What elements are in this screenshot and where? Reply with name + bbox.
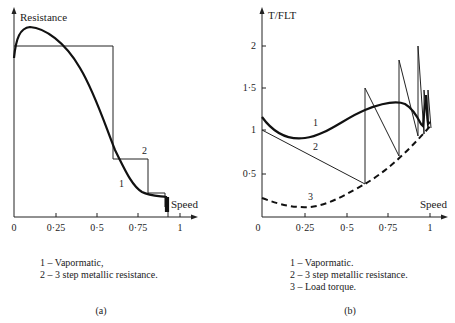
panel-b-axes <box>260 7 449 220</box>
panel-a-legend: 1 – Vapormatic, 2 – 3 step metallic resi… <box>40 257 158 281</box>
panel-a-legend-item: 1 – Vapormatic, <box>40 257 158 269</box>
panel-a-legend-item: 2 – 3 step metallic resistance. <box>40 269 158 281</box>
panel-b-curve-label-3: 3 <box>308 192 313 202</box>
panel-a-x-tick: 0·25 <box>47 223 65 233</box>
panel-b-legend-item: 3 – Load torque. <box>290 281 408 293</box>
panel-a-axes <box>12 7 199 220</box>
panel-b-y-tick: 1·5 <box>226 83 256 93</box>
panel-b-y-tick: 0·5 <box>226 169 256 179</box>
panel-b-x-tick: 0 <box>256 223 261 233</box>
panel-a-x-tick: 0·5 <box>90 223 103 233</box>
panel-b-x-tick: 1 <box>428 223 433 233</box>
panel-a-y-axis-label: Resistance <box>20 12 67 23</box>
panel-b-y-axis-label: T/FLT <box>268 10 296 21</box>
panel-a-vapormatic-curve <box>14 27 168 212</box>
panel-b-legend-item: 1 – Vapormatic. <box>290 257 408 269</box>
panel-a-curve-label-2: 2 <box>142 146 147 156</box>
panel-b-legend-item: 2 – 3 step metallic resistance. <box>290 269 408 281</box>
panel-a-caption: (a) <box>95 306 106 316</box>
panel-b-step-resistance-line <box>262 46 431 184</box>
panel-a-x-axis-label: Speed <box>171 199 198 210</box>
panel-b-legend: 1 – Vapormatic. 2 – 3 step metallic resi… <box>290 257 408 293</box>
panel-b-y-tick: 2 <box>226 41 256 51</box>
panel-a-curve-label-1: 1 <box>119 179 124 189</box>
panel-b-curve-label-1: 1 <box>313 118 318 128</box>
panel-b-vapormatic-curve <box>262 95 430 138</box>
panel-b-x-tick: 0·75 <box>379 223 397 233</box>
panel-a-x-tick: 0 <box>12 223 17 233</box>
panel-b-x-axis-label: Speed <box>420 199 447 210</box>
panel-a-step-resistance-line <box>14 46 168 217</box>
panel-b-y-tick: 1 <box>226 125 256 135</box>
panel-b-x-tick: 0·5 <box>340 223 353 233</box>
panel-b-curve-label-2: 2 <box>313 142 318 152</box>
panel-a-x-tick: 1 <box>178 223 183 233</box>
panel-a-x-tick: 0·75 <box>129 223 147 233</box>
panel-b-x-tick: 0·25 <box>296 223 314 233</box>
panel-b-caption: (b) <box>344 306 356 316</box>
